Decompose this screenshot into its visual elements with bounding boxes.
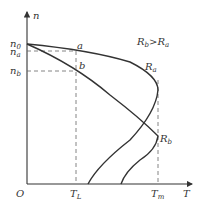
- origin-label: O: [16, 188, 24, 199]
- x-axis-label: T: [183, 188, 191, 199]
- point-a-label: a: [77, 40, 83, 51]
- curve-ra: [27, 44, 158, 184]
- condition-label: Rb>Ra: [136, 36, 169, 49]
- y-axis-label: n: [33, 10, 39, 21]
- torque-speed-diagram: n T O n0 na nb TL Tm a b Ra Rb Rb>Ra: [0, 0, 204, 209]
- curve-rb: [27, 44, 158, 184]
- tick-tm: Tm: [151, 188, 165, 201]
- point-b-label: b: [79, 60, 85, 71]
- tick-nb: nb: [10, 65, 21, 78]
- curve-rb-label: Rb: [159, 133, 173, 146]
- tick-tl: TL: [70, 188, 82, 201]
